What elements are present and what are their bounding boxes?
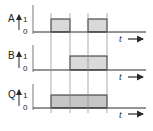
signal-a-panel: A 1 0 t [8,5,146,44]
signal-q-panel: Q 1 0 t [8,84,146,120]
signal-a-time-label: t [119,33,122,44]
signal-a-low-label: 0 [23,27,28,36]
signal-q-label: Q [8,89,16,100]
signal-q-high-label: 1 [23,91,28,100]
signal-b-time-label: t [119,71,122,82]
signal-b-low-label: 0 [23,64,28,73]
signal-b-label: B [8,50,15,61]
signal-a-pulse-2 [88,19,107,32]
signal-a-label: A [8,13,15,24]
signal-q-time-label: t [119,109,122,120]
timing-diagram: A 1 0 t B 1 0 t Q 1 0 t [0,0,153,131]
signal-q-pulse-1 [51,95,107,108]
signal-a-high-label: 1 [23,15,28,24]
signal-b-pulse-1 [70,56,107,70]
signal-b-panel: B 1 0 t [8,45,146,82]
signal-a-pulse-1 [51,19,70,32]
signal-q-low-label: 0 [23,103,28,112]
signal-b-high-label: 1 [23,52,28,61]
